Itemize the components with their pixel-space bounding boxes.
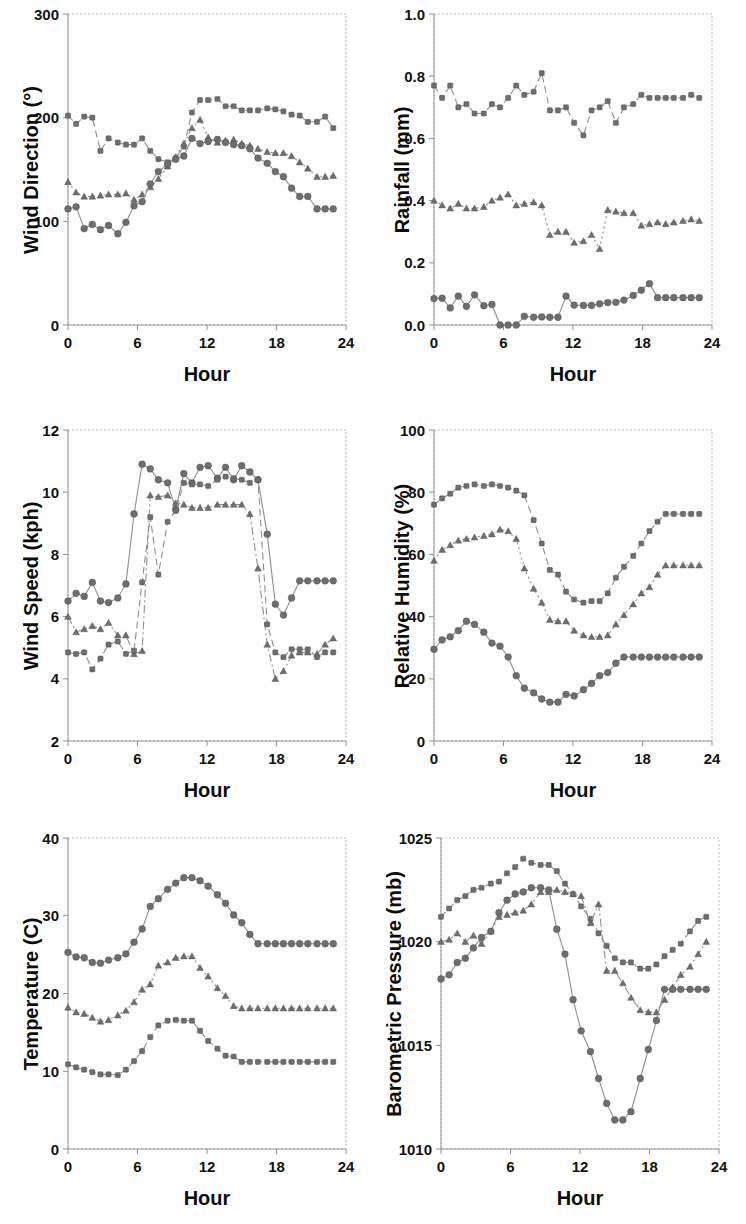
y-axis-title-wrap: Temperature (C)	[20, 918, 43, 1071]
data-point-marker	[189, 874, 196, 881]
data-point-marker	[215, 1046, 220, 1051]
data-point-marker	[280, 1005, 287, 1011]
data-point-marker	[687, 963, 694, 969]
data-point-marker	[304, 193, 311, 200]
data-point-marker	[563, 105, 568, 110]
series-lower	[438, 884, 710, 1123]
data-point-marker	[314, 119, 319, 124]
x-tick-label: 12	[572, 1158, 589, 1175]
data-point-marker	[497, 526, 504, 532]
data-point-marker	[255, 477, 260, 482]
data-point-marker	[505, 654, 512, 661]
data-point-marker	[639, 541, 644, 546]
data-point-marker	[172, 880, 179, 887]
data-point-marker	[264, 1005, 271, 1011]
series-line	[441, 888, 706, 1120]
data-point-marker	[222, 464, 229, 471]
x-tick-label: 24	[338, 334, 355, 351]
data-point-marker	[81, 225, 88, 232]
data-point-marker	[280, 668, 287, 674]
data-point-marker	[139, 198, 146, 205]
x-tick-label: 0	[64, 334, 72, 351]
series-line	[441, 859, 706, 969]
data-point-marker	[272, 168, 279, 175]
data-point-marker	[630, 292, 637, 299]
data-point-marker	[645, 1046, 652, 1053]
data-point-marker	[587, 1048, 594, 1055]
data-point-marker	[140, 1048, 145, 1053]
data-point-marker	[81, 954, 88, 961]
data-point-marker	[547, 567, 552, 572]
y-tick-label: 1.0	[404, 6, 425, 23]
data-point-marker	[628, 1108, 635, 1115]
data-point-marker	[155, 962, 162, 968]
data-point-marker	[197, 1028, 202, 1033]
data-point-marker	[131, 142, 136, 147]
data-point-marker	[131, 196, 138, 202]
y-tick-label: 0	[51, 317, 59, 334]
subplot-barometric-pressure: 101010151020102506121824HourBarometric P…	[373, 816, 746, 1224]
data-point-marker	[438, 976, 445, 983]
data-point-marker	[123, 581, 130, 588]
data-point-marker	[214, 136, 221, 143]
data-point-marker	[139, 926, 146, 933]
data-point-marker	[89, 579, 96, 586]
data-point-marker	[663, 95, 668, 100]
data-point-marker	[238, 142, 245, 149]
data-point-marker	[331, 650, 336, 655]
data-point-marker	[580, 238, 587, 244]
data-point-marker	[662, 654, 669, 661]
data-point-marker	[323, 1059, 328, 1064]
x-tick-label: 6	[133, 750, 141, 767]
data-point-marker	[205, 883, 212, 890]
data-point-marker	[689, 511, 694, 516]
data-point-marker	[264, 940, 271, 947]
data-point-marker	[546, 699, 553, 706]
data-point-marker	[528, 884, 535, 891]
data-point-marker	[222, 900, 229, 907]
x-tick-label: 0	[64, 1158, 72, 1175]
data-point-marker	[697, 95, 702, 100]
data-point-marker	[106, 136, 111, 141]
data-point-marker	[264, 160, 271, 167]
data-point-marker	[114, 954, 121, 961]
data-point-marker	[440, 496, 445, 501]
data-point-marker	[521, 313, 528, 320]
data-point-marker	[546, 231, 553, 237]
x-tick-label: 24	[704, 750, 721, 767]
subplot-rainfall: 0.00.20.40.60.81.006121824HourRainfall (…	[373, 0, 746, 408]
data-point-marker	[562, 881, 567, 886]
data-point-marker	[173, 508, 178, 513]
data-point-marker	[497, 643, 504, 650]
data-point-marker	[281, 1059, 286, 1064]
data-point-marker	[215, 477, 220, 482]
data-point-marker	[580, 686, 587, 693]
data-point-marker	[447, 906, 452, 911]
data-point-marker	[512, 891, 519, 898]
data-point-marker	[273, 1059, 278, 1064]
data-point-marker	[612, 621, 619, 627]
data-point-marker	[281, 109, 286, 114]
data-point-marker	[481, 111, 486, 116]
data-point-marker	[123, 219, 130, 226]
data-point-marker	[704, 914, 709, 919]
data-point-marker	[105, 619, 112, 625]
data-point-marker	[73, 203, 80, 210]
data-point-marker	[255, 1005, 262, 1011]
data-point-marker	[513, 202, 520, 208]
data-point-marker	[314, 1059, 319, 1064]
data-point-marker	[580, 302, 587, 309]
data-point-marker	[265, 622, 270, 627]
subplot-relative-humidity: 02040608010006121824HourRelative Humidit…	[373, 408, 746, 816]
data-point-marker	[115, 639, 120, 644]
data-point-marker	[297, 647, 302, 652]
data-point-marker	[504, 897, 511, 904]
y-tick-label: 1025	[399, 830, 432, 847]
data-point-marker	[670, 294, 677, 301]
data-point-marker	[231, 476, 236, 481]
data-point-marker	[472, 111, 477, 116]
x-axis-title: Hour	[184, 779, 231, 801]
data-point-marker	[206, 97, 211, 102]
data-point-marker	[305, 119, 310, 124]
y-tick-label: 1010	[399, 1141, 432, 1158]
